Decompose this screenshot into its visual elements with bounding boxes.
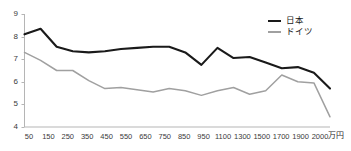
series-line-japan [25, 29, 331, 89]
line-chart: 456789 501502503504505506507508509501100… [0, 0, 351, 151]
y-axis-tick-label: 8 [4, 33, 18, 41]
series-line-germany [25, 52, 331, 116]
y-axis-tick-label: 4 [4, 123, 18, 131]
legend-label: 日本 [286, 16, 304, 25]
y-axis-tick-label: 9 [4, 10, 18, 18]
legend-swatch [268, 31, 281, 33]
legend-swatch [268, 20, 281, 22]
y-axis-tick-label: 6 [4, 78, 18, 86]
y-axis-tick-label: 5 [4, 100, 18, 108]
legend-label: ドイツ [286, 27, 313, 36]
y-axis-tick-label: 7 [4, 55, 18, 63]
x-axis-unit-label: 万円 [328, 132, 344, 140]
